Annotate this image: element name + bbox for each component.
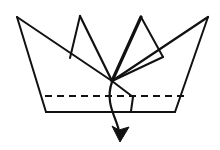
origami-diagram-figure <box>0 0 220 150</box>
inner-right-spike-right-leg <box>141 17 163 57</box>
fold-arrow-head-icon <box>112 126 129 142</box>
origami-diagram-canvas <box>0 0 220 150</box>
inner-left-spike-left-leg <box>70 16 80 58</box>
